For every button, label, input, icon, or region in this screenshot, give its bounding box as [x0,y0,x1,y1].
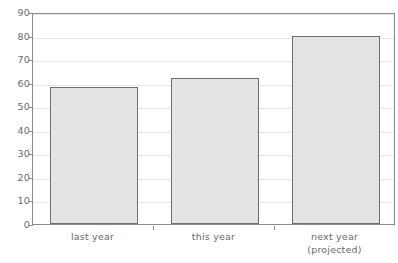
x-tick-mark [153,226,154,230]
x-tick-label-line: last year [32,231,153,244]
x-tick-label: next year(projected) [274,231,395,256]
x-tick-label-line: this year [153,231,274,244]
bar-chart: 0102030405060708090 last yearthis yearne… [0,0,398,263]
bar [50,87,138,224]
x-tick-label: last year [32,231,153,244]
y-tick-label: 10 [4,197,30,207]
y-tick-mark [29,225,33,226]
y-tick-label: 40 [4,126,30,136]
y-tick-label: 80 [4,32,30,42]
y-tick-label: 70 [4,55,30,65]
y-tick-label: 30 [4,150,30,160]
x-tick-label-line: (projected) [274,244,395,257]
x-tick-mark [274,226,275,230]
y-tick-label: 0 [4,220,30,230]
y-axis: 0102030405060708090 [0,13,30,225]
plot-area [32,13,395,225]
x-tick-label: this year [153,231,274,244]
x-tick-label-line: next year [274,231,395,244]
bar [171,78,259,224]
bar-series [33,14,394,224]
y-tick-label: 20 [4,173,30,183]
y-tick-label: 50 [4,102,30,112]
bar [292,36,380,224]
y-tick-label: 60 [4,79,30,89]
y-tick-label: 90 [4,8,30,18]
